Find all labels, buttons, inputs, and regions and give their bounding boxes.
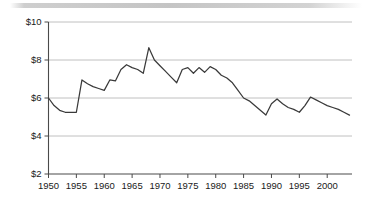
x-tick-label: 1975: [177, 180, 198, 191]
chart-figure: $10$8$6$4$2 1950195519601965197019751980…: [0, 0, 369, 201]
x-tick-label: 1965: [122, 180, 143, 191]
y-tick-label-group: $10$8$6$4$2: [26, 16, 42, 179]
y-tick-label: $4: [31, 130, 42, 141]
data-series-line: [49, 48, 350, 115]
line-chart: $10$8$6$4$2 1950195519601965197019751980…: [0, 0, 369, 201]
y-tick-label: $2: [31, 168, 42, 179]
y-tick-label: $10: [26, 16, 42, 27]
gridlines-group: [49, 22, 353, 136]
x-tick-label-group: 1950195519601965197019751980198519901995…: [38, 180, 338, 191]
x-tick-label: 1990: [261, 180, 282, 191]
x-tick-label: 1955: [66, 180, 87, 191]
x-tick-label: 2000: [317, 180, 338, 191]
x-tick-group: [49, 174, 328, 178]
x-tick-label: 1960: [94, 180, 115, 191]
x-tick-label: 1980: [205, 180, 226, 191]
x-tick-label: 1985: [233, 180, 254, 191]
x-tick-label: 1970: [149, 180, 170, 191]
x-tick-label: 1995: [289, 180, 310, 191]
y-tick-label: $8: [31, 54, 42, 65]
x-tick-label: 1950: [38, 180, 59, 191]
y-tick-label: $6: [31, 92, 42, 103]
